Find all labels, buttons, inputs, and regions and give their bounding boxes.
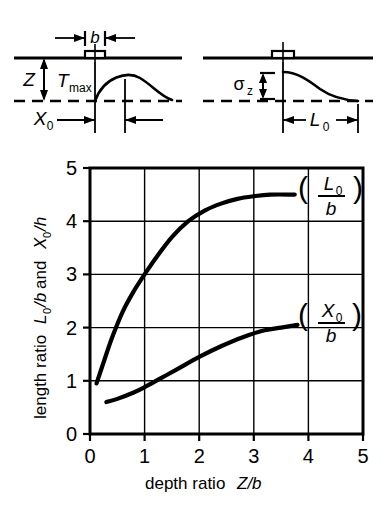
x-tick-label: 5 [357, 445, 368, 467]
l0-arrow-left-icon [283, 116, 294, 124]
z-arrow-down-icon [40, 90, 48, 101]
y-axis-title-text3: and [31, 261, 50, 289]
l0b-numerator: L [324, 173, 335, 194]
x-tick-label: 3 [248, 445, 259, 467]
sketch-left: b Z T max X 0 [14, 28, 182, 133]
x0b-paren-close: ) [352, 298, 362, 331]
b-label: b [90, 28, 99, 47]
y-tick-label: 0 [66, 423, 77, 445]
x-axis-title-text: depth ratio [145, 474, 225, 493]
x-axis-tick-labels: 012345 [84, 445, 368, 467]
x0-arrow-left-icon [125, 116, 136, 124]
sigmaz-arrow-down-icon [259, 89, 267, 99]
l0b-denominator: b [326, 198, 337, 219]
l0-label: L [310, 109, 321, 130]
x0-label: X [33, 108, 48, 129]
x-tick-label: 2 [194, 445, 205, 467]
x-axis-title-italic: Z/b [236, 474, 262, 493]
y-tick-label: 2 [66, 317, 77, 339]
x0b-paren-open: ( [298, 298, 308, 331]
z-arrow-up-icon [40, 58, 48, 69]
stress-curve-right [283, 72, 358, 101]
y-axis-tick-labels: 012345 [66, 157, 77, 445]
y-axis-title-text2: /b [31, 293, 50, 308]
y-axis-title-text1: length ratio [31, 335, 50, 419]
figure-svg: b Z T max X 0 [0, 0, 387, 511]
stress-curve-left [95, 75, 172, 101]
z-label: Z [22, 69, 36, 90]
x-axis-title: depth ratio Z/b [145, 474, 262, 493]
y-tick-label: 1 [66, 370, 77, 392]
x-tick-label: 0 [84, 445, 95, 467]
sigmaz-arrow-up-icon [259, 73, 267, 83]
y-axis-title-italic1: L [31, 315, 50, 324]
sigmaz-label: σ [233, 74, 244, 94]
x0b-denominator: b [326, 325, 337, 346]
y-axis-title: length ratio L 0 /b and X 0 /h [31, 217, 53, 419]
l0-subscript: 0 [323, 120, 330, 134]
figure-container: b Z T max X 0 [0, 0, 387, 511]
y-axis-title-sub1: 0 [41, 308, 53, 314]
y-tick-label: 4 [66, 210, 77, 232]
l0-arrow-right-icon [347, 116, 358, 124]
chart: 012345 012345 ( L 0 b ) ( X 0 b ) depth … [31, 157, 369, 493]
tmax-subscript: max [69, 81, 92, 95]
x-tick-label: 4 [303, 445, 314, 467]
series-curve [106, 325, 297, 402]
x0b-numerator: X [321, 300, 336, 321]
series-label-x0b: ( X 0 b ) [298, 298, 362, 346]
sigmaz-subscript: z [247, 84, 253, 98]
l0b-paren-close: ) [353, 171, 363, 204]
y-axis-title-text4: /h [31, 217, 50, 232]
y-tick-label: 5 [66, 157, 77, 179]
y-axis-title-sub2: 0 [41, 232, 53, 238]
sketch-right: σ z L 0 [203, 42, 373, 134]
y-tick-label: 3 [66, 263, 77, 285]
x-tick-label: 1 [139, 445, 150, 467]
x0-arrow-right-icon [84, 116, 95, 124]
series-curve [97, 194, 295, 383]
b-arrow-left-icon [74, 34, 85, 42]
b-arrow-right-icon [105, 34, 116, 42]
x0-subscript: 0 [47, 119, 54, 133]
l0b-paren-open: ( [298, 171, 308, 204]
chart-series-curves [97, 194, 298, 402]
